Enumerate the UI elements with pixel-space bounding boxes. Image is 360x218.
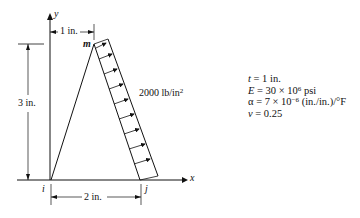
y-axis-label: y	[54, 8, 58, 19]
load-arrows	[96, 43, 150, 164]
dimension-1in-label: 1 in.	[60, 25, 78, 36]
load-value: 2000 lb/in	[139, 87, 180, 98]
y-axis	[47, 13, 53, 180]
node-i-label: i	[42, 183, 45, 194]
property-thermal-expansion: α = 7 × 10−6 (in./in.)/°F	[248, 96, 346, 108]
x-axis-label: x	[190, 172, 194, 183]
property-poisson: ν = 0.25	[248, 108, 346, 120]
property-modulus: E = 30 × 106 psi	[248, 85, 346, 97]
triangle-element	[51, 44, 140, 180]
load-label: 2000 lb/in2	[139, 87, 183, 98]
dimension-3in-label: 3 in.	[18, 97, 36, 108]
material-properties: t = 1 in. E = 30 × 106 psi α = 7 × 10−6 …	[248, 73, 346, 119]
dimension-2in-label: 2 in.	[84, 191, 102, 202]
node-j-label: j	[145, 183, 148, 194]
dimension-3in	[18, 44, 44, 180]
load-exponent: 2	[180, 87, 184, 95]
node-m-label: m	[83, 38, 91, 49]
property-thickness: t = 1 in.	[248, 73, 346, 85]
distributed-load	[94, 39, 158, 180]
